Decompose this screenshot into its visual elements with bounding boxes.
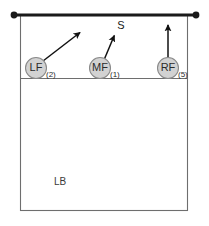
player-number-lf: (2) <box>46 70 56 79</box>
mf-movement-arrow <box>104 36 114 61</box>
player-label-lf: LF <box>30 61 43 73</box>
right-post-icon <box>193 12 200 19</box>
left-post-icon <box>11 12 18 19</box>
player-token-mf[interactable]: MF (1) <box>90 58 121 79</box>
volleyball-rotation-diagram: LF (2) MF (1) RF (5) S LB <box>0 0 209 226</box>
player-number-rf: (5) <box>178 70 188 79</box>
left-back-zone-label: LB <box>54 176 67 187</box>
court-boundary <box>21 16 188 211</box>
lf-movement-arrow <box>43 33 80 62</box>
player-label-mf: MF <box>92 61 108 73</box>
player-token-lf[interactable]: LF (2) <box>26 58 57 79</box>
setter-label: S <box>117 19 124 31</box>
player-number-mf: (1) <box>110 70 120 79</box>
player-token-rf[interactable]: RF (5) <box>158 58 189 79</box>
player-label-rf: RF <box>161 61 176 73</box>
court-diagram-canvas: LF (2) MF (1) RF (5) S LB <box>0 0 209 226</box>
